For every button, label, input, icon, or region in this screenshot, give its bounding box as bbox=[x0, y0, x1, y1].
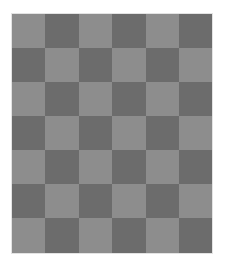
board-cell-light bbox=[112, 48, 146, 82]
board-cell-light bbox=[146, 82, 179, 116]
board-cell-light bbox=[79, 82, 112, 116]
checkerboard-grid bbox=[12, 14, 212, 253]
board-cell-dark bbox=[179, 82, 212, 116]
board-cell-light bbox=[112, 116, 146, 150]
board-cell-light bbox=[45, 48, 79, 82]
board-cell-dark bbox=[112, 14, 146, 48]
board-cell-dark bbox=[179, 150, 212, 184]
board-cell-dark bbox=[45, 82, 79, 116]
board-cell-dark bbox=[45, 218, 79, 253]
board-cell-light bbox=[179, 48, 212, 82]
board-cell-light bbox=[146, 218, 179, 253]
board-cell-dark bbox=[12, 184, 45, 218]
board-cell-light bbox=[79, 218, 112, 253]
board-cell-light bbox=[45, 184, 79, 218]
board-cell-light bbox=[12, 150, 45, 184]
board-cell-dark bbox=[179, 218, 212, 253]
board-cell-dark bbox=[146, 116, 179, 150]
board-cell-dark bbox=[146, 184, 179, 218]
board-cell-light bbox=[179, 184, 212, 218]
board-cell-dark bbox=[12, 116, 45, 150]
board-cell-dark bbox=[79, 48, 112, 82]
board-cell-light bbox=[79, 14, 112, 48]
board-cell-dark bbox=[112, 82, 146, 116]
board-cell-light bbox=[112, 184, 146, 218]
board-cell-dark bbox=[12, 48, 45, 82]
board-cell-light bbox=[179, 116, 212, 150]
board-cell-dark bbox=[112, 150, 146, 184]
board-cell-dark bbox=[45, 14, 79, 48]
board-cell-dark bbox=[146, 48, 179, 82]
board-cell-light bbox=[12, 14, 45, 48]
board-cell-dark bbox=[112, 218, 146, 253]
board-cell-dark bbox=[79, 184, 112, 218]
board-cell-light bbox=[12, 218, 45, 253]
board-cell-dark bbox=[45, 150, 79, 184]
board-cell-dark bbox=[179, 14, 212, 48]
board-cell-light bbox=[12, 82, 45, 116]
board-cell-light bbox=[146, 150, 179, 184]
board-cell-light bbox=[79, 150, 112, 184]
board-cell-dark bbox=[79, 116, 112, 150]
board-cell-light bbox=[146, 14, 179, 48]
board-cell-light bbox=[45, 116, 79, 150]
